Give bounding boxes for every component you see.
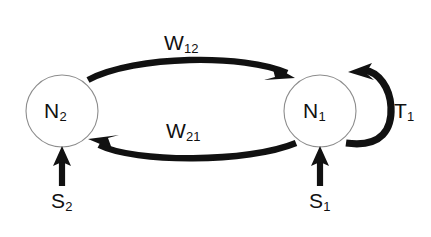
node-n1-label: N1 bbox=[303, 100, 326, 121]
edge-t1-label-base: T bbox=[394, 99, 407, 122]
input-s1-label: S1 bbox=[309, 190, 330, 211]
edge-t1-label-subscript: 1 bbox=[407, 109, 414, 124]
edge-w12-label: W12 bbox=[164, 32, 199, 53]
node-n1-label-base: N bbox=[303, 99, 318, 122]
diagram-canvas: N2 N1 W12 W21 T1 S2 S1 bbox=[0, 0, 431, 237]
input-s1-label-base: S bbox=[309, 189, 323, 212]
input-s1-label-subscript: 1 bbox=[323, 199, 330, 214]
input-s2-label-base: S bbox=[51, 189, 65, 212]
input-s2-label-subscript: 2 bbox=[65, 199, 72, 214]
input-s1-arrow bbox=[311, 146, 329, 186]
input-s2-label: S2 bbox=[51, 190, 72, 211]
edge-w12 bbox=[88, 60, 295, 80]
edge-w12-label-subscript: 12 bbox=[184, 41, 198, 56]
input-s2-arrow bbox=[53, 146, 71, 186]
edge-w21-curve bbox=[99, 143, 296, 158]
edge-w12-curve bbox=[88, 60, 287, 80]
node-n2-label-base: N bbox=[44, 99, 59, 122]
edge-w12-label-base: W bbox=[164, 31, 184, 54]
node-n1-label-subscript: 1 bbox=[318, 109, 325, 124]
edge-t1-label: T1 bbox=[394, 100, 414, 121]
node-n2-label-subscript: 2 bbox=[59, 109, 66, 124]
node-n2-label: N2 bbox=[44, 100, 67, 121]
edge-w21-label-base: W bbox=[166, 119, 186, 142]
edge-w21-label-subscript: 21 bbox=[186, 129, 200, 144]
edge-w21-label: W21 bbox=[166, 120, 201, 141]
